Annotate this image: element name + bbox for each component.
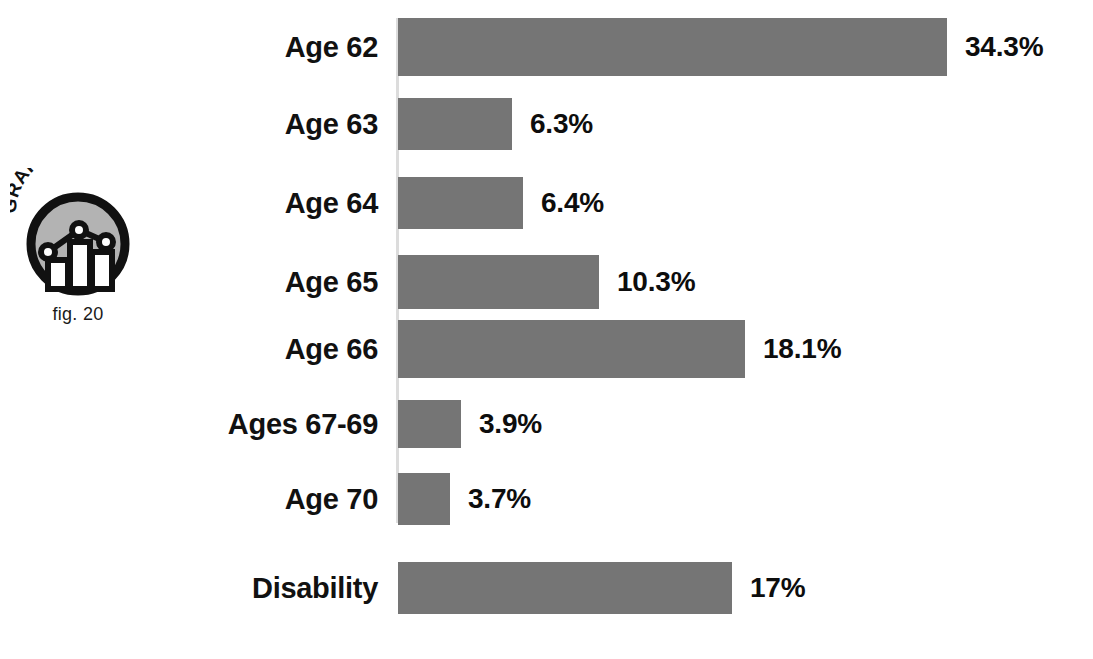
bar-value-label: 3.9% [479, 400, 542, 448]
bar-row: Disability17% [0, 562, 1093, 614]
bar [398, 562, 732, 614]
bar [398, 320, 745, 378]
bar-row: Age 703.7% [0, 473, 1093, 525]
bar [398, 98, 512, 150]
bar-row: Ages 67-693.9% [0, 400, 1093, 448]
bar-row: Age 6618.1% [0, 320, 1093, 378]
bar [398, 18, 947, 76]
bar-category-label: Age 62 [18, 18, 378, 76]
bar [398, 255, 599, 309]
bar-value-label: 34.3% [965, 18, 1043, 76]
bar-row: Age 6510.3% [0, 255, 1093, 309]
bar-category-label: Age 64 [18, 177, 378, 229]
bar [398, 177, 523, 229]
bar-row: Age 636.3% [0, 98, 1093, 150]
bar-value-label: 6.4% [541, 177, 604, 229]
bar-value-label: 17% [750, 562, 805, 614]
bar-row: Age 6234.3% [0, 18, 1093, 76]
bar-row: Age 646.4% [0, 177, 1093, 229]
bar-value-label: 10.3% [617, 255, 695, 309]
bar-category-label: Disability [18, 562, 378, 614]
bar [398, 400, 461, 448]
horizontal-bar-chart: Age 6234.3%Age 636.3%Age 646.4%Age 6510.… [0, 0, 1093, 659]
bar-value-label: 6.3% [530, 98, 593, 150]
bar-category-label: Ages 67-69 [18, 400, 378, 448]
bar-value-label: 18.1% [763, 320, 841, 378]
bar [398, 473, 450, 525]
bar-category-label: Age 65 [18, 255, 378, 309]
bar-category-label: Age 63 [18, 98, 378, 150]
bar-value-label: 3.7% [468, 473, 531, 525]
bar-category-label: Age 70 [18, 473, 378, 525]
bar-category-label: Age 66 [18, 320, 378, 378]
